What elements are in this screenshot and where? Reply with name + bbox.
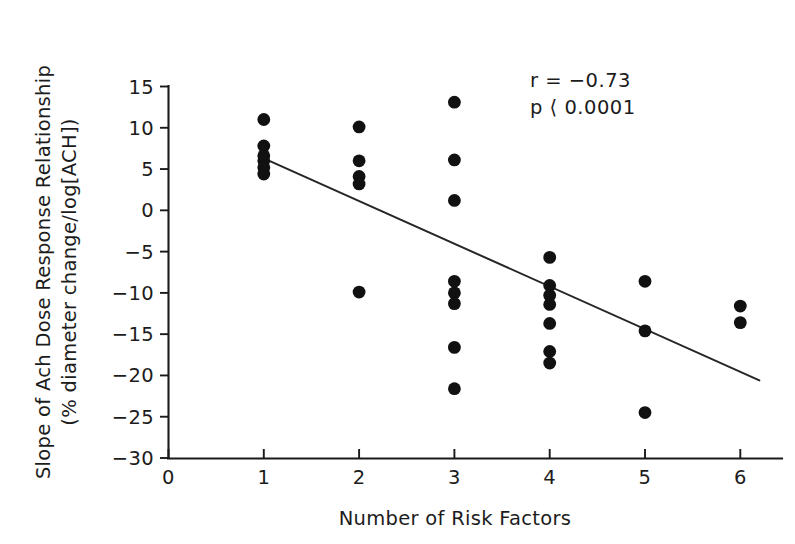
x-tick-label: 6: [734, 466, 747, 489]
y-tick-group: 151050−5−10−15−20−25−30: [112, 76, 169, 471]
data-point: [353, 178, 366, 191]
data-point: [448, 382, 461, 395]
plot-canvas: 151050−5−10−15−20−25−30 0123456 Slope of…: [0, 0, 795, 544]
data-point: [257, 168, 270, 181]
y-tick-label: 5: [141, 158, 154, 181]
data-point: [543, 298, 556, 311]
regression-line-group: [264, 158, 760, 380]
y-tick-label: 15: [128, 76, 154, 99]
data-point: [639, 406, 652, 419]
data-point: [257, 113, 270, 126]
data-point: [448, 96, 461, 109]
y-tick-label: −15: [112, 323, 154, 346]
x-tick-label: 3: [448, 466, 461, 489]
data-point: [353, 154, 366, 167]
y-tick-label: −10: [112, 282, 154, 305]
x-tick-label: 2: [353, 466, 366, 489]
data-point: [543, 317, 556, 330]
x-axis-title: Number of Risk Factors: [339, 507, 572, 530]
y-axis-title-line1: Slope of Ach Dose Response Relationship: [32, 65, 55, 479]
data-point: [448, 275, 461, 288]
correlation-annotation: r = −0.73: [530, 69, 631, 92]
x-tick-group: 0123456: [162, 449, 747, 489]
y-tick-label: 10: [128, 117, 154, 140]
data-point: [448, 194, 461, 207]
y-tick-label: −25: [112, 406, 154, 429]
data-point: [639, 324, 652, 337]
y-tick-label: −20: [112, 364, 154, 387]
data-point: [639, 275, 652, 288]
data-point: [353, 286, 366, 299]
data-point: [353, 121, 366, 134]
data-point: [543, 357, 556, 370]
x-tick-label: 1: [257, 466, 270, 489]
pvalue-annotation: p ⟨ 0.0001: [530, 96, 636, 119]
data-point: [448, 154, 461, 167]
data-point: [734, 300, 747, 313]
scatter-plot-figure: 151050−5−10−15−20−25−30 0123456 Slope of…: [0, 0, 795, 544]
x-tick-label: 5: [639, 466, 652, 489]
y-tick-label: −30: [112, 447, 154, 470]
x-tick-label: 0: [162, 466, 175, 489]
data-point: [734, 316, 747, 329]
data-point: [448, 297, 461, 310]
y-tick-label: 0: [141, 199, 154, 222]
y-axis-title-line2: (% diameter change/log[ACH]): [58, 118, 81, 426]
y-tick-label: −5: [124, 241, 154, 264]
data-points-group: [257, 96, 746, 419]
regression-line: [264, 158, 760, 380]
x-tick-label: 4: [543, 466, 556, 489]
data-point: [543, 251, 556, 264]
data-point: [448, 341, 461, 354]
data-point: [543, 345, 556, 358]
